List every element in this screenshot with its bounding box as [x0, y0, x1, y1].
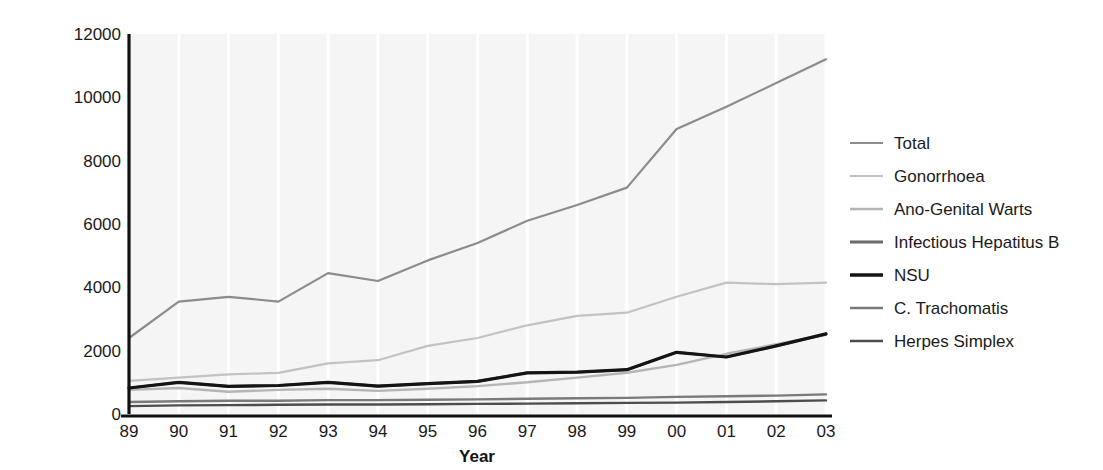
- x-tick-label: 95: [418, 422, 437, 441]
- x-tick-label: 99: [617, 422, 636, 441]
- y-tick-label: 2000: [83, 342, 121, 361]
- legend-item[interactable]: Herpes Simplex: [850, 332, 1014, 351]
- x-tick-label: 90: [169, 422, 188, 441]
- legend-label: Ano-Genital Warts: [894, 200, 1032, 219]
- y-tick-label: 12000: [74, 25, 121, 44]
- y-axis-tick-labels: 020004000600080001000012000: [74, 25, 121, 424]
- x-axis-tick-labels: 899091929394959697989900010203: [120, 422, 836, 441]
- y-tick-label: 6000: [83, 215, 121, 234]
- x-tick-label: 91: [219, 422, 238, 441]
- x-tick-label: 89: [120, 422, 139, 441]
- x-tick-label: 93: [319, 422, 338, 441]
- chart-figure: 020004000600080001000012000 899091929394…: [0, 0, 1103, 470]
- x-tick-label: 00: [667, 422, 686, 441]
- legend-item[interactable]: C. Trachomatis: [850, 299, 1008, 318]
- x-tick-label: 92: [269, 422, 288, 441]
- legend-label: Gonorrhoea: [894, 167, 985, 186]
- y-tick-label: 10000: [74, 88, 121, 107]
- chart-legend: TotalGonorrhoeaAno-Genital WartsInfectio…: [850, 134, 1059, 351]
- x-tick-label: 01: [717, 422, 736, 441]
- y-tick-label: 8000: [83, 152, 121, 171]
- legend-label: C. Trachomatis: [894, 299, 1008, 318]
- legend-label: Herpes Simplex: [894, 332, 1014, 351]
- x-tick-label: 98: [568, 422, 587, 441]
- x-axis-title: Year: [459, 447, 495, 466]
- line-chart: 020004000600080001000012000 899091929394…: [0, 0, 1103, 470]
- legend-item[interactable]: Infectious Hepatitus B: [850, 233, 1059, 252]
- legend-item[interactable]: Total: [850, 134, 930, 153]
- legend-label: NSU: [894, 266, 930, 285]
- y-tick-label: 4000: [83, 278, 121, 297]
- x-tick-label: 02: [767, 422, 786, 441]
- x-tick-label: 96: [468, 422, 487, 441]
- legend-item[interactable]: Gonorrhoea: [850, 167, 985, 186]
- x-tick-label: 94: [368, 422, 387, 441]
- legend-item[interactable]: NSU: [850, 266, 930, 285]
- legend-item[interactable]: Ano-Genital Warts: [850, 200, 1032, 219]
- legend-label: Total: [894, 134, 930, 153]
- x-tick-label: 03: [817, 422, 836, 441]
- legend-label: Infectious Hepatitus B: [894, 233, 1059, 252]
- x-tick-label: 97: [518, 422, 537, 441]
